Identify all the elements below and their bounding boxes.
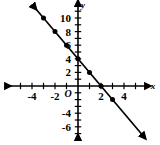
y-tick-label: 10	[60, 12, 72, 24]
y-tick-label: 6	[66, 39, 72, 51]
coordinate-graph-figure: -4-224 108642-4-6 O x y	[0, 0, 160, 145]
x-axis-name-label: x	[150, 81, 156, 91]
data-point	[110, 97, 115, 102]
data-point	[76, 56, 81, 61]
y-tick-label: -4	[62, 107, 72, 119]
data-point	[53, 29, 58, 34]
y-tick-label: 8	[66, 26, 72, 38]
x-tick-label: 4	[121, 90, 127, 102]
data-point	[99, 84, 104, 89]
x-tick-label: -4	[27, 90, 37, 102]
graph-canvas: -4-224 108642-4-6 O x y	[0, 0, 160, 145]
data-point	[41, 16, 46, 21]
x-tick-label: 2	[98, 90, 104, 102]
origin-label: O	[64, 88, 71, 99]
y-tick-label: 4	[66, 53, 72, 65]
y-tick-label: -6	[62, 121, 72, 133]
data-point	[87, 70, 92, 75]
y-tick-label: 2	[66, 66, 72, 78]
x-tick-label: -2	[50, 90, 60, 102]
